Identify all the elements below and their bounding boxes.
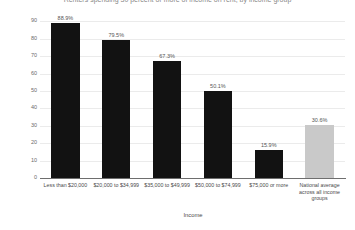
y-axis-tick-label: 80 [31,36,37,42]
bar[interactable]: 88.9% [51,23,79,178]
bar[interactable]: 79.5% [102,40,130,178]
y-axis-tick-label: 60 [31,71,37,77]
x-axis-tick-label: National average across all income group… [294,182,345,202]
bar-value-label: 67.3% [159,53,175,59]
x-axis-tick-label: $75,000 or more [243,182,294,189]
gridline [40,91,345,92]
bar-value-label: 79.5% [108,32,124,38]
x-axis-title: Income [40,212,346,219]
y-axis-tick-label: 10 [31,158,37,164]
y-axis-title-container: Percent spending 30 percent of income or… [12,18,13,178]
bar[interactable]: 15.9% [255,150,283,178]
gridline [40,143,345,144]
y-axis-tick-label: 40 [31,106,37,112]
bar-value-label: 88.9% [58,15,74,21]
gridline [40,161,345,162]
bar[interactable]: 30.6% [305,125,333,178]
y-axis-tick-label: 50 [31,88,37,94]
gridline [40,21,345,22]
bar-value-label: 50.1% [210,83,226,89]
plot-area: 010203040506070809088.9%79.5%67.3%50.1%1… [40,18,345,178]
gridline [40,74,345,75]
y-axis-tick-label: 20 [31,140,37,146]
bar[interactable]: 50.1% [204,91,232,178]
y-axis-tick-label: 90 [31,19,37,25]
bar-value-label: 15.9% [261,142,277,148]
chart-title: Renters spending 30 percent or more of i… [0,0,355,4]
gridline [40,39,345,40]
bar-chart: Renters spending 30 percent or more of i… [0,0,355,230]
gridline [40,108,345,109]
y-axis-tick-label: 0 [34,175,37,181]
gridline [40,126,345,127]
bar[interactable]: 67.3% [153,61,181,178]
x-axis-tick-label: Less than $20,000 [40,182,91,189]
bar-value-label: 30.6% [312,117,328,123]
x-axis-tick-label: $35,000 to $49,999 [142,182,193,189]
x-axis-tick-label: $50,000 to $74,999 [193,182,244,189]
x-axis-line [40,178,346,179]
y-axis-tick-label: 30 [31,123,37,129]
x-axis-tick-label: $20,000 to $34,999 [91,182,142,189]
y-axis-tick-label: 70 [31,54,37,60]
gridline [40,56,345,57]
